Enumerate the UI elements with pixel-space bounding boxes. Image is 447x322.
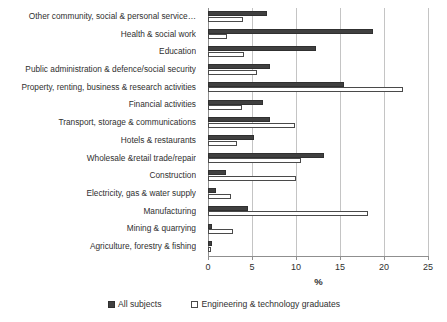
bar-all-subjects xyxy=(208,117,270,122)
x-axis-tick-label: 25 xyxy=(413,262,443,272)
category-label: Manufacturing xyxy=(0,207,196,216)
category-label: Education xyxy=(0,47,196,56)
x-axis-tick-label: 0 xyxy=(193,262,223,272)
bar-engineering-graduates xyxy=(208,247,211,252)
x-axis-tick-label: 20 xyxy=(369,262,399,272)
category-label: Construction xyxy=(0,171,196,180)
bar-all-subjects xyxy=(208,188,216,193)
bar-all-subjects xyxy=(208,46,316,51)
chart-legend: All subjectsEngineering & technology gra… xyxy=(108,296,438,312)
bar-engineering-graduates xyxy=(208,123,295,128)
category-label: Wholesale &retail trade/repair xyxy=(0,154,196,163)
x-axis-tick-label: 10 xyxy=(281,262,311,272)
plot-area xyxy=(208,8,428,256)
bar-engineering-graduates xyxy=(208,17,243,22)
bar-engineering-graduates xyxy=(208,70,257,75)
gridline xyxy=(296,8,297,256)
bar-engineering-graduates xyxy=(208,34,227,39)
category-label: Public administration & defence/social s… xyxy=(0,65,196,74)
bar-engineering-graduates xyxy=(208,211,368,216)
bar-all-subjects xyxy=(208,224,212,229)
x-axis-tick-label: 15 xyxy=(325,262,355,272)
bar-all-subjects xyxy=(208,153,324,158)
bar-engineering-graduates xyxy=(208,141,237,146)
bar-engineering-graduates xyxy=(208,158,301,163)
category-label: Hotels & restaurants xyxy=(0,136,196,145)
bar-all-subjects xyxy=(208,206,248,211)
legend-swatch-icon xyxy=(191,301,198,308)
category-label: Financial activities xyxy=(0,100,196,109)
legend-item[interactable]: All subjects xyxy=(108,299,161,309)
gridline xyxy=(340,8,341,256)
gridline xyxy=(384,8,385,256)
x-axis-tick xyxy=(252,256,253,260)
bar-engineering-graduates xyxy=(208,52,244,57)
bar-engineering-graduates xyxy=(208,176,296,181)
bar-engineering-graduates xyxy=(208,194,231,199)
bar-all-subjects xyxy=(208,170,226,175)
legend-label: Engineering & technology graduates xyxy=(201,299,340,309)
category-axis-labels: Other community, social & personal servi… xyxy=(0,8,202,256)
category-label: Other community, social & personal servi… xyxy=(0,12,196,21)
value-axis-line xyxy=(208,8,209,256)
x-axis-tick xyxy=(296,256,297,260)
bar-all-subjects xyxy=(208,100,263,105)
x-axis-tick-label: 5 xyxy=(237,262,267,272)
category-label: Transport, storage & communications xyxy=(0,118,196,127)
category-label: Property, renting, business & research a… xyxy=(0,83,196,92)
x-axis-tick xyxy=(428,256,429,260)
gridline xyxy=(428,8,429,256)
bar-all-subjects xyxy=(208,82,344,87)
x-axis-tick xyxy=(340,256,341,260)
bar-engineering-graduates xyxy=(208,87,403,92)
category-label: Mining & quarrying xyxy=(0,224,196,233)
legend-item[interactable]: Engineering & technology graduates xyxy=(191,299,340,309)
category-label: Health & social work xyxy=(0,30,196,39)
bar-all-subjects xyxy=(208,135,254,140)
category-label: Agriculture, forestry & fishing xyxy=(0,242,196,251)
bar-chart: Other community, social & personal servi… xyxy=(0,0,447,322)
bar-all-subjects xyxy=(208,64,270,69)
x-axis-tick xyxy=(384,256,385,260)
x-axis-tick xyxy=(208,256,209,260)
bar-engineering-graduates xyxy=(208,229,233,234)
bar-engineering-graduates xyxy=(208,105,242,110)
category-label: Electricity, gas & water supply xyxy=(0,189,196,198)
category-axis-line xyxy=(208,256,429,257)
bar-all-subjects xyxy=(208,29,373,34)
x-axis-title: % xyxy=(208,276,429,287)
legend-label: All subjects xyxy=(118,299,161,309)
bar-all-subjects xyxy=(208,241,212,246)
legend-swatch-icon xyxy=(108,301,115,308)
bar-all-subjects xyxy=(208,11,267,16)
gridline xyxy=(252,8,253,256)
